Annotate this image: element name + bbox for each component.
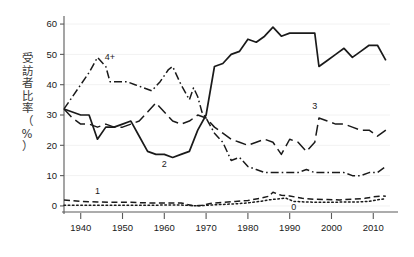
series-label-1: 1 xyxy=(95,186,100,196)
y-tick-label: 40 xyxy=(46,79,57,90)
series-line-2 xyxy=(64,27,386,157)
chart-container: 受 訪 者 比 率 （ % ） 0102030405060 1940195019… xyxy=(0,0,414,257)
x-tick-label: 1960 xyxy=(154,222,175,233)
y-tick-label: 10 xyxy=(46,170,57,181)
y-axis-title-char: ） xyxy=(14,140,40,153)
line-chart-plot: 0102030405060 19401950196019701980199020… xyxy=(0,0,414,257)
x-tick-label: 2010 xyxy=(363,222,384,233)
y-axis-ticks: 0102030405060 xyxy=(46,18,64,211)
y-axis-title-char: 者 xyxy=(14,77,40,90)
y-axis-title-char: （ xyxy=(14,115,40,128)
y-tick-label: 0 xyxy=(52,200,57,211)
y-tick-label: 50 xyxy=(46,49,57,60)
y-axis-title-char: 受 xyxy=(14,52,40,65)
y-tick-label: 20 xyxy=(46,140,57,151)
y-tick-label: 30 xyxy=(46,109,57,120)
x-tick-label: 1970 xyxy=(196,222,217,233)
series-annotations: 234+10 xyxy=(95,52,317,211)
x-tick-label: 1940 xyxy=(70,222,91,233)
x-tick-label: 1980 xyxy=(237,222,258,233)
series-label-3: 3 xyxy=(312,101,317,111)
x-tick-label: 1950 xyxy=(112,222,133,233)
series-label-0: 0 xyxy=(291,202,296,212)
x-axis-ticks: 19401950196019701980199020002010 xyxy=(70,213,384,233)
y-axis-title: 受 訪 者 比 率 （ % ） xyxy=(14,52,40,153)
series-label-2: 2 xyxy=(162,159,167,169)
series-label-4+: 4+ xyxy=(105,52,115,62)
y-tick-label: 60 xyxy=(46,18,57,29)
x-tick-label: 2000 xyxy=(321,222,342,233)
series-line-4+ xyxy=(64,57,386,175)
x-tick-label: 1990 xyxy=(279,222,300,233)
